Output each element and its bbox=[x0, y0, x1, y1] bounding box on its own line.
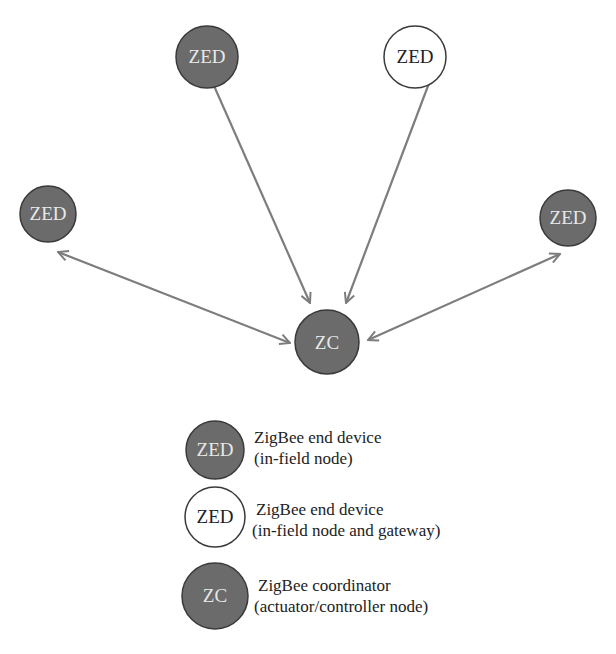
svg-text:ZED: ZED bbox=[197, 439, 234, 460]
legend-label-line1: ZigBee end device bbox=[254, 427, 381, 448]
legend-symbol-coordinator: ZC bbox=[182, 563, 248, 629]
edges bbox=[58, 70, 560, 343]
legend-label-gateway: ZigBee end device (in-field node and gat… bbox=[252, 499, 440, 541]
legend-label-coordinator: ZigBee coordinator (actuator/controller … bbox=[254, 575, 428, 617]
svg-text:ZED: ZED bbox=[397, 46, 434, 67]
edge-top-right-to-zc bbox=[346, 70, 434, 303]
legend-label-line2: (in-field node) bbox=[254, 448, 381, 469]
node-zed-top-left: ZED bbox=[176, 26, 238, 88]
edge-top-left-to-zc bbox=[207, 70, 310, 303]
legend-label-end-device: ZigBee end device (in-field node) bbox=[254, 427, 381, 469]
svg-text:ZED: ZED bbox=[197, 506, 234, 527]
legend-symbol-end-device: ZED bbox=[186, 421, 244, 479]
node-zc-coordinator: ZC bbox=[295, 310, 359, 374]
svg-text:ZED: ZED bbox=[550, 207, 587, 228]
edge-right-to-zc bbox=[368, 254, 560, 340]
node-zed-top-right-gateway: ZED bbox=[384, 26, 446, 88]
legend-label-line1: ZigBee end device bbox=[252, 499, 440, 520]
node-zed-right: ZED bbox=[540, 190, 596, 246]
legend-label-line2: (in-field node and gateway) bbox=[252, 520, 440, 541]
legend-label-line2: (actuator/controller node) bbox=[254, 596, 428, 617]
svg-text:ZC: ZC bbox=[203, 585, 227, 606]
node-zed-left: ZED bbox=[20, 186, 76, 242]
svg-text:ZED: ZED bbox=[189, 46, 226, 67]
edge-left-to-zc bbox=[58, 252, 290, 343]
svg-text:ZED: ZED bbox=[30, 203, 67, 224]
network-diagram: ZED ZED ZED ZED ZC ZED ZED ZC bbox=[0, 0, 616, 654]
legend-symbol-gateway: ZED bbox=[185, 487, 245, 547]
legend-label-line1: ZigBee coordinator bbox=[254, 575, 428, 596]
svg-text:ZC: ZC bbox=[315, 332, 339, 353]
